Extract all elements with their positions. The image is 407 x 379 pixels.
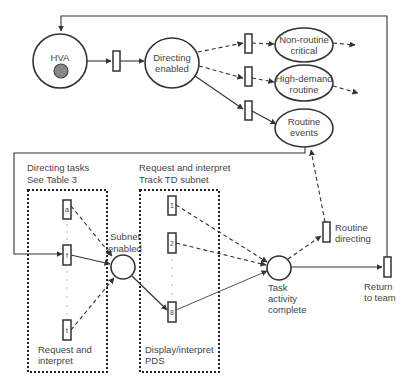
track-td-title: Request and interpret xyxy=(139,162,231,173)
transition-f: f xyxy=(63,245,71,265)
token-icon xyxy=(54,64,68,78)
request-interpret-label-2: interpret xyxy=(38,355,73,366)
return-to-team-label: Return xyxy=(364,281,393,292)
place-hva: HVA xyxy=(33,34,87,88)
place-directing-enabled: Directing enabled xyxy=(145,38,199,88)
svg-text:f: f xyxy=(66,252,68,259)
place-high-demand-routine: High-demand routine xyxy=(275,65,333,101)
place-subnet-enabled xyxy=(111,255,135,279)
request-interpret-label: Request and xyxy=(38,344,92,355)
directing-tasks-title: Directing tasks xyxy=(27,162,90,173)
transition-start xyxy=(113,51,120,71)
svg-text:Non-routine: Non-routine xyxy=(279,34,329,45)
svg-text:2: 2 xyxy=(170,240,174,247)
transition-routine xyxy=(245,101,252,120)
place-routine-events: Routine events xyxy=(275,109,333,147)
svg-text:enabled: enabled xyxy=(108,243,142,254)
transition-high-demand xyxy=(245,67,252,86)
svg-text:t: t xyxy=(66,327,68,334)
place-non-routine-critical: Non-routine critical xyxy=(275,28,333,62)
svg-text:Routine: Routine xyxy=(288,116,321,127)
svg-text:routine: routine xyxy=(289,84,318,95)
svg-text:critical: critical xyxy=(291,45,318,56)
svg-text:events: events xyxy=(290,127,318,138)
transition-1: 1 xyxy=(168,196,176,215)
directing-tasks-subtitle: See Table 3 xyxy=(27,174,77,185)
place-task-activity-complete xyxy=(267,256,291,280)
task-activity-complete-label: Task xyxy=(268,282,288,293)
feedback-loop-edge xyxy=(61,16,387,257)
petri-net-diagram: HVA Directing enabled Non-routine critic… xyxy=(0,0,407,379)
transition-routine-directing xyxy=(323,222,330,242)
ellipsis-dots xyxy=(171,259,172,294)
subnet-enabled-label: Subnet xyxy=(110,231,140,242)
display-interpret-label: Display/interpret xyxy=(145,344,214,355)
svg-text:High-demand: High-demand xyxy=(275,73,332,84)
svg-text:a: a xyxy=(65,206,69,213)
transition-a: a xyxy=(63,200,71,219)
track-td-subtitle: Track TD subnet xyxy=(139,174,209,185)
svg-text:complete: complete xyxy=(268,304,307,315)
svg-text:to team: to team xyxy=(364,292,396,303)
ellipsis-dots xyxy=(66,224,67,314)
svg-text:activity: activity xyxy=(268,293,297,304)
svg-text:Directing: Directing xyxy=(153,52,191,63)
hva-label: HVA xyxy=(51,52,70,63)
transition-8: 8 xyxy=(168,302,176,322)
routine-directing-label: Routine xyxy=(335,222,368,233)
display-interpret-label-2: PDS xyxy=(145,355,165,366)
svg-text:enabled: enabled xyxy=(155,63,189,74)
transition-non-routine xyxy=(245,34,252,53)
svg-text:directing: directing xyxy=(335,233,371,244)
transition-return-to-team xyxy=(384,257,391,277)
transition-t: t xyxy=(63,320,71,340)
svg-text:8: 8 xyxy=(170,309,174,316)
svg-text:1: 1 xyxy=(170,202,174,209)
transition-2: 2 xyxy=(168,233,176,253)
